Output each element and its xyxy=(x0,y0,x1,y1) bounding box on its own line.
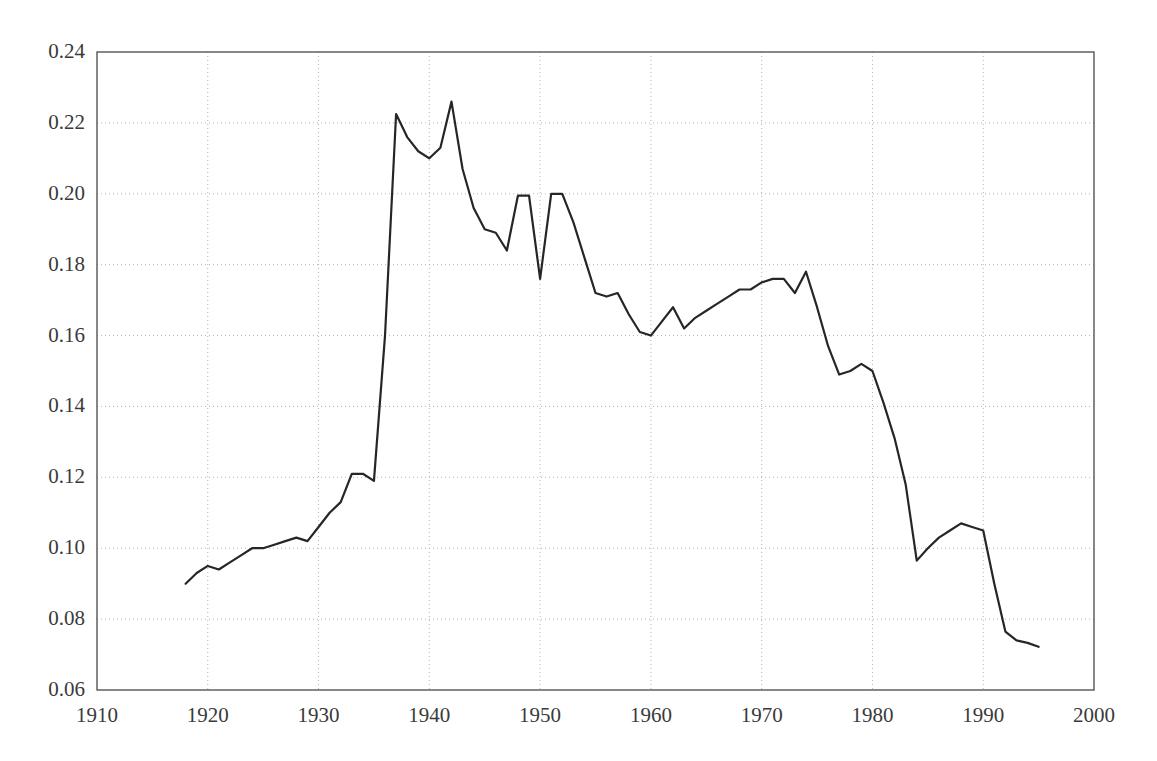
line-chart: 0.060.080.100.120.140.160.180.200.220.24… xyxy=(0,0,1157,761)
y-tick-label: 0.08 xyxy=(48,608,85,629)
data-series xyxy=(186,102,1039,647)
y-tick-label: 0.20 xyxy=(48,183,85,204)
plot-border xyxy=(97,52,1094,690)
y-tick-label: 0.18 xyxy=(48,254,85,275)
y-tick-label: 0.14 xyxy=(48,395,85,416)
x-tick-label: 1970 xyxy=(722,705,802,726)
gridlines xyxy=(97,52,1094,690)
axis-frame xyxy=(97,52,1094,690)
x-tick-label: 1980 xyxy=(832,705,912,726)
x-tick-label: 1930 xyxy=(279,705,359,726)
y-tick-label: 0.24 xyxy=(48,41,85,62)
y-tick-label: 0.16 xyxy=(48,325,85,346)
x-tick-label: 1990 xyxy=(943,705,1023,726)
y-tick-label: 0.10 xyxy=(48,537,85,558)
x-tick-label: 1960 xyxy=(611,705,691,726)
x-tick-label: 1950 xyxy=(500,705,580,726)
x-tick-label: 1910 xyxy=(57,705,137,726)
y-tick-label: 0.06 xyxy=(48,679,85,700)
plot-canvas xyxy=(0,0,1157,761)
x-tick-label: 1920 xyxy=(168,705,248,726)
series-line-1 xyxy=(186,102,1039,647)
x-tick-label: 2000 xyxy=(1054,705,1134,726)
x-tick-label: 1940 xyxy=(389,705,469,726)
y-tick-label: 0.22 xyxy=(48,112,85,133)
y-tick-label: 0.12 xyxy=(48,466,85,487)
